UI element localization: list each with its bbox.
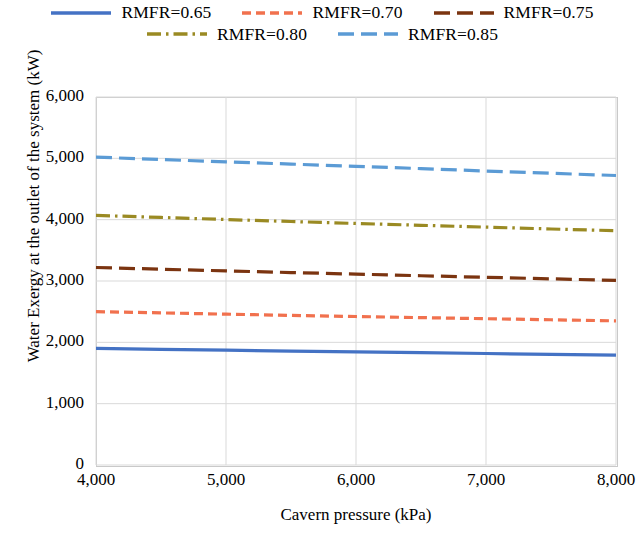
x-axis-tick-label: 4,000 (77, 470, 115, 490)
x-axis-tick-label: 5,000 (207, 470, 245, 490)
y-axis-tick-label: 0 (0, 454, 84, 474)
y-axis-tick-label: 3,000 (0, 270, 84, 290)
y-axis-tick-label: 6,000 (0, 86, 84, 106)
y-axis-tick-label: 2,000 (0, 331, 84, 351)
chart-plot-wrapper: Water Exergy at the outlet of the system… (0, 0, 644, 540)
grid-lines (96, 97, 616, 465)
y-axis-tick-label: 4,000 (0, 209, 84, 229)
chart-canvas (0, 0, 644, 540)
x-axis-tick-label: 7,000 (467, 470, 505, 490)
x-axis-tick-label: 6,000 (337, 470, 375, 490)
y-axis-tick-label: 1,000 (0, 393, 84, 413)
y-axis-tick-label: 5,000 (0, 147, 84, 167)
x-axis-tick-label: 8,000 (597, 470, 635, 490)
x-axis-title: Cavern pressure (kPa) (96, 505, 616, 525)
